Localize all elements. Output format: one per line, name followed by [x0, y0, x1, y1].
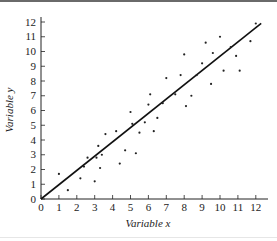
- data-point: [183, 53, 185, 55]
- data-point: [249, 40, 251, 42]
- data-point: [104, 133, 106, 135]
- data-point: [129, 111, 131, 113]
- data-point: [165, 77, 167, 79]
- regression-line: [41, 23, 261, 199]
- data-point: [205, 42, 207, 44]
- data-point: [58, 173, 60, 175]
- data-point: [222, 70, 224, 72]
- x-tick-label: 1: [56, 201, 62, 213]
- data-point: [212, 52, 214, 54]
- data-point: [83, 165, 85, 167]
- data-point: [185, 105, 187, 107]
- data-point: [99, 167, 101, 169]
- x-tick-label: 2: [74, 201, 80, 213]
- y-axis-title: Variable y: [3, 87, 15, 132]
- x-tick-label: 10: [215, 201, 227, 213]
- y-tick-label: 1: [31, 178, 37, 190]
- y-tick-label: 10: [25, 45, 37, 57]
- data-point: [95, 157, 97, 159]
- data-point: [97, 145, 99, 147]
- y-tick-label: 11: [25, 30, 36, 42]
- data-point: [101, 154, 103, 156]
- data-point: [153, 130, 155, 132]
- y-tick-label: 6: [31, 104, 37, 116]
- y-tick-label: 3: [31, 148, 37, 160]
- data-point: [210, 83, 212, 85]
- data-point: [135, 152, 137, 154]
- x-tick-label: 5: [128, 201, 134, 213]
- x-tick-label: 11: [233, 201, 244, 213]
- data-point: [156, 117, 158, 119]
- x-tick-label: 0: [38, 201, 44, 213]
- data-point: [147, 104, 149, 106]
- data-point: [235, 55, 237, 57]
- y-tick-label: 5: [31, 119, 37, 131]
- data-point: [201, 62, 203, 64]
- y-tick-label: 2: [31, 163, 37, 175]
- x-tick-label: 4: [110, 201, 116, 213]
- x-tick-label: 12: [250, 201, 261, 213]
- data-point: [180, 74, 182, 76]
- data-point: [239, 70, 241, 72]
- data-point: [119, 163, 121, 165]
- y-tick-label: 12: [25, 16, 36, 28]
- scatter-chart: 01234567891011120123456789101112 Variabl…: [0, 0, 277, 241]
- data-point: [138, 132, 140, 134]
- data-point: [94, 180, 96, 182]
- data-point: [144, 121, 146, 123]
- x-axis-title: Variable x: [126, 217, 171, 229]
- x-tick-label: 9: [199, 201, 205, 213]
- data-point: [230, 46, 232, 48]
- y-tick-label: 8: [31, 75, 37, 87]
- x-tick-label: 3: [92, 201, 98, 213]
- data-point: [162, 102, 164, 104]
- data-point: [174, 93, 176, 95]
- data-point: [115, 130, 117, 132]
- data-point: [149, 93, 151, 95]
- data-point: [124, 149, 126, 151]
- data-point: [255, 22, 257, 24]
- x-tick-label: 6: [146, 201, 152, 213]
- data-point: [190, 95, 192, 97]
- y-tick-label: 0: [31, 193, 37, 205]
- data-point: [219, 36, 221, 38]
- y-tick-label: 7: [31, 89, 37, 101]
- data-point: [196, 74, 198, 76]
- x-tick-label: 8: [181, 201, 187, 213]
- y-tick-label: 9: [31, 60, 37, 72]
- data-point: [86, 157, 88, 159]
- x-tick-label: 7: [164, 201, 170, 213]
- data-point: [131, 123, 133, 125]
- data-point: [67, 189, 69, 191]
- y-tick-label: 4: [31, 134, 37, 146]
- data-point: [79, 177, 81, 179]
